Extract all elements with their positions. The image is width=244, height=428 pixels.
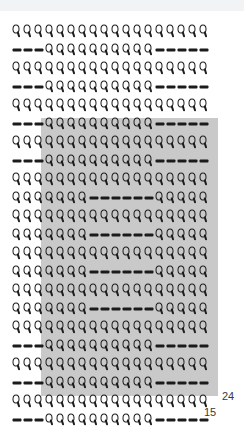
grid-cell[interactable]: [44, 22, 55, 40]
grid-cell[interactable]: [99, 207, 110, 225]
grid-cell[interactable]: [66, 41, 77, 59]
grid-cell[interactable]: [132, 318, 143, 336]
grid-cell[interactable]: [55, 207, 66, 225]
grid-cell[interactable]: [99, 337, 110, 355]
grid-cell[interactable]: [143, 374, 154, 392]
grid-cell[interactable]: [198, 41, 209, 59]
grid-cell[interactable]: [55, 300, 66, 318]
grid-cell[interactable]: [77, 392, 88, 410]
grid-cell[interactable]: [121, 207, 132, 225]
grid-cell[interactable]: [44, 411, 55, 428]
grid-cell[interactable]: [154, 170, 165, 188]
grid-cell[interactable]: [77, 300, 88, 318]
grid-cell[interactable]: [143, 78, 154, 96]
grid-cell[interactable]: [198, 207, 209, 225]
grid-cell[interactable]: [11, 133, 22, 151]
grid-cell[interactable]: [55, 115, 66, 133]
grid-cell[interactable]: [88, 170, 99, 188]
grid-cell[interactable]: [88, 22, 99, 40]
grid-cell[interactable]: [33, 411, 44, 428]
grid-cell[interactable]: [77, 263, 88, 281]
grid-cell[interactable]: [55, 392, 66, 410]
grid-cell[interactable]: [55, 189, 66, 207]
grid-cell[interactable]: [187, 318, 198, 336]
grid-cell[interactable]: [99, 115, 110, 133]
grid-cell[interactable]: [22, 41, 33, 59]
grid-cell[interactable]: [143, 244, 154, 262]
grid-cell[interactable]: [110, 189, 121, 207]
grid-cell[interactable]: [132, 374, 143, 392]
grid-cell[interactable]: [66, 263, 77, 281]
grid-cell[interactable]: [11, 41, 22, 59]
grid-cell[interactable]: [77, 374, 88, 392]
grid-cell[interactable]: [154, 281, 165, 299]
grid-cell[interactable]: [187, 115, 198, 133]
grid-cell[interactable]: [187, 244, 198, 262]
grid-cell[interactable]: [55, 170, 66, 188]
grid-cell[interactable]: [33, 115, 44, 133]
grid-cell[interactable]: [55, 318, 66, 336]
grid-cell[interactable]: [33, 244, 44, 262]
grid-cell[interactable]: [66, 355, 77, 373]
grid-cell[interactable]: [55, 281, 66, 299]
grid-cell[interactable]: [154, 41, 165, 59]
grid-cell[interactable]: [165, 115, 176, 133]
grid-cell[interactable]: [66, 96, 77, 114]
grid-cell[interactable]: [121, 337, 132, 355]
grid-cell[interactable]: [22, 226, 33, 244]
grid-cell[interactable]: [77, 355, 88, 373]
grid-cell[interactable]: [165, 318, 176, 336]
grid-cell[interactable]: [11, 189, 22, 207]
grid-cell[interactable]: [110, 41, 121, 59]
grid-cell[interactable]: [44, 374, 55, 392]
grid-cell[interactable]: [110, 226, 121, 244]
grid-cell[interactable]: [187, 263, 198, 281]
grid-cell[interactable]: [176, 411, 187, 428]
grid-cell[interactable]: [11, 207, 22, 225]
grid-cell[interactable]: [99, 374, 110, 392]
grid-cell[interactable]: [110, 318, 121, 336]
grid-cell[interactable]: [66, 337, 77, 355]
grid-cell[interactable]: [154, 189, 165, 207]
grid-cell[interactable]: [110, 411, 121, 428]
grid-cell[interactable]: [198, 189, 209, 207]
grid-cell[interactable]: [88, 207, 99, 225]
grid-cell[interactable]: [99, 78, 110, 96]
grid-cell[interactable]: [198, 281, 209, 299]
grid-cell[interactable]: [77, 115, 88, 133]
grid-cell[interactable]: [99, 133, 110, 151]
grid-cell[interactable]: [143, 281, 154, 299]
grid-cell[interactable]: [11, 374, 22, 392]
grid-cell[interactable]: [165, 133, 176, 151]
grid-cell[interactable]: [132, 96, 143, 114]
grid-cell[interactable]: [22, 189, 33, 207]
grid-cell[interactable]: [22, 374, 33, 392]
grid-cell[interactable]: [154, 226, 165, 244]
grid-cell[interactable]: [77, 337, 88, 355]
grid-cell[interactable]: [154, 263, 165, 281]
grid-cell[interactable]: [11, 96, 22, 114]
grid-cell[interactable]: [176, 244, 187, 262]
grid-cell[interactable]: [66, 226, 77, 244]
grid-cell[interactable]: [176, 78, 187, 96]
grid-cell[interactable]: [143, 318, 154, 336]
grid-cell[interactable]: [176, 281, 187, 299]
grid-cell[interactable]: [198, 115, 209, 133]
grid-cell[interactable]: [77, 170, 88, 188]
grid-cell[interactable]: [44, 355, 55, 373]
grid-cell[interactable]: [22, 337, 33, 355]
grid-cell[interactable]: [77, 244, 88, 262]
grid-cell[interactable]: [33, 281, 44, 299]
grid-cell[interactable]: [154, 78, 165, 96]
grid-cell[interactable]: [154, 244, 165, 262]
grid-cell[interactable]: [187, 22, 198, 40]
grid-cell[interactable]: [44, 78, 55, 96]
grid-cell[interactable]: [77, 59, 88, 77]
grid-cell[interactable]: [88, 337, 99, 355]
grid-cell[interactable]: [44, 392, 55, 410]
grid-cell[interactable]: [66, 59, 77, 77]
grid-cell[interactable]: [165, 22, 176, 40]
grid-cell[interactable]: [44, 263, 55, 281]
grid-cell[interactable]: [110, 300, 121, 318]
grid-cell[interactable]: [44, 244, 55, 262]
